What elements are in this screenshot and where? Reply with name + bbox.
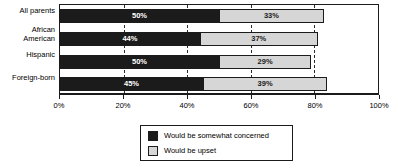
bar-track-all-parents: 50% 33%	[60, 9, 378, 23]
x-tick-0	[59, 95, 60, 99]
x-tick-label-100: 100%	[369, 101, 388, 110]
bar-track-african-american: 44% 37%	[60, 32, 378, 46]
x-tick-60	[251, 95, 252, 99]
bar-segment-upset: 29%	[219, 55, 311, 69]
legend-item-concerned: Would be somewhat concerned	[148, 130, 269, 142]
table-row: 50% 29%	[60, 55, 378, 69]
x-axis	[59, 94, 379, 101]
bar-track-foreign-born: 45% 39%	[60, 77, 378, 91]
x-tick-label-60: 60%	[243, 101, 258, 110]
category-label-line: Foreign-born	[0, 74, 55, 83]
bar-segment-concerned: 50%	[60, 9, 219, 23]
x-tick-label-40: 40%	[179, 101, 194, 110]
bar-value-label: 37%	[251, 35, 266, 43]
category-label-line: Hispanic	[0, 51, 55, 60]
bar-value-label: 39%	[258, 80, 273, 88]
bar-segment-upset: 39%	[203, 77, 327, 91]
stacked-bar-chart: All parents African American Hispanic Fo…	[0, 0, 398, 168]
bar-value-label: 29%	[258, 58, 273, 66]
x-tick-40	[187, 95, 188, 99]
table-row: 44% 37%	[60, 32, 378, 46]
bar-track-hispanic: 50% 29%	[60, 55, 378, 69]
plot-area: 50% 33% 44% 37%	[59, 4, 379, 94]
legend-label: Would be upset	[164, 147, 216, 155]
bar-rows: 50% 33% 44% 37%	[60, 5, 378, 93]
x-tick-20	[123, 95, 124, 99]
category-label-line: All parents	[0, 7, 55, 16]
x-tick-80	[315, 95, 316, 99]
x-tick-100	[379, 95, 380, 99]
category-label-foreign-born: Foreign-born	[0, 74, 55, 83]
legend-item-upset: Would be upset	[148, 145, 216, 157]
bar-value-label: 50%	[132, 12, 147, 20]
bar-segment-upset: 37%	[200, 32, 318, 46]
category-label-line: American	[0, 35, 55, 44]
x-tick-label-0: 0%	[54, 101, 65, 110]
table-row: 50% 33%	[60, 9, 378, 23]
category-label-african-american: African American	[0, 26, 55, 43]
bar-segment-concerned: 50%	[60, 55, 219, 69]
dark-swatch-icon	[148, 131, 158, 141]
table-row: 45% 39%	[60, 77, 378, 91]
chart-legend: Would be somewhat concerned Would be ups…	[140, 125, 293, 161]
category-label-all-parents: All parents	[0, 7, 55, 16]
category-label-hispanic: Hispanic	[0, 51, 55, 60]
x-tick-label-80: 80%	[307, 101, 322, 110]
light-swatch-icon	[148, 146, 158, 156]
bar-segment-concerned: 44%	[60, 32, 200, 46]
bar-segment-concerned: 45%	[60, 77, 203, 91]
bar-value-label: 45%	[124, 80, 139, 88]
bar-value-label: 44%	[122, 35, 137, 43]
bar-value-label: 50%	[132, 58, 147, 66]
category-axis-labels: All parents African American Hispanic Fo…	[0, 4, 55, 94]
bar-segment-upset: 33%	[219, 9, 324, 23]
bar-value-label: 33%	[264, 12, 279, 20]
x-tick-label-20: 20%	[115, 101, 130, 110]
legend-label: Would be somewhat concerned	[164, 132, 269, 140]
